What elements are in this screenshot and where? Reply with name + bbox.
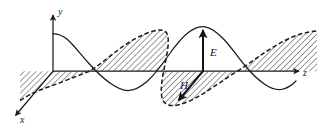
z-axis-label: z — [302, 67, 307, 78]
em-wave-diagram: E H y z x — [0, 0, 317, 127]
electric-field-vector: E — [203, 30, 217, 71]
h-vector-label: H — [179, 79, 189, 91]
x-axis-label: x — [19, 114, 25, 125]
em-wave-figure: E H y z x — [0, 0, 317, 127]
e-vector-label: E — [209, 46, 217, 58]
y-axis-label: y — [57, 6, 63, 17]
